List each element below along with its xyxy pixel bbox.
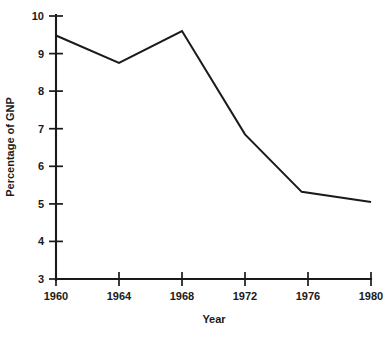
x-tick-label: 1976 [296, 290, 320, 302]
y-tick-label: 4 [38, 235, 45, 247]
x-tick-label: 1980 [359, 290, 383, 302]
y-tick-label: 8 [38, 85, 44, 97]
chart-background [0, 0, 391, 337]
y-tick-label: 6 [38, 160, 44, 172]
y-axis-title: Percentage of GNP [4, 97, 16, 197]
x-tick-label: 1972 [233, 290, 257, 302]
y-tick-label: 10 [32, 10, 44, 22]
x-tick-label: 1964 [107, 290, 132, 302]
x-axis-title: Year [202, 313, 226, 325]
line-chart: 10 9 8 7 6 5 4 3 1960 1964 1968 1972 197… [0, 0, 391, 337]
y-tick-label: 9 [38, 48, 44, 60]
y-tick-label: 3 [38, 273, 44, 285]
chart-figure: 10 9 8 7 6 5 4 3 1960 1964 1968 1972 197… [0, 0, 391, 337]
y-tick-label: 7 [38, 123, 44, 135]
x-tick-label: 1960 [44, 290, 68, 302]
x-tick-label: 1968 [170, 290, 194, 302]
y-tick-label: 5 [38, 198, 44, 210]
